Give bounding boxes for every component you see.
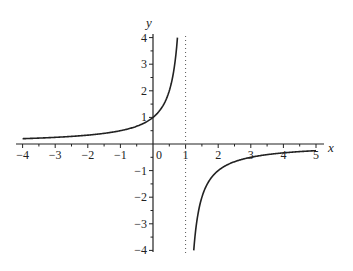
x-tick-label: 2 (215, 148, 221, 162)
x-tick-label: −3 (49, 148, 62, 162)
x-axis-label: x (327, 140, 334, 155)
y-tick-label: 2 (141, 84, 147, 98)
x-tick-label: 1 (183, 148, 189, 162)
x-tick-label: 0 (156, 148, 162, 162)
y-tick-label: 3 (141, 57, 147, 71)
y-tick-label: −2 (134, 190, 147, 204)
y-tick-label: 4 (141, 31, 147, 45)
y-tick-label: −4 (134, 243, 147, 257)
x-tick-label: 3 (248, 148, 254, 162)
function-plot: −4−3−2−1012345−4−3−2−11234 x y (0, 0, 353, 271)
curve-branch-left (23, 38, 178, 139)
x-tick-label: −4 (16, 148, 29, 162)
x-tick-label: −1 (114, 148, 127, 162)
y-axis-label: y (144, 15, 152, 30)
x-tick-label: −2 (81, 148, 94, 162)
y-tick-label: −1 (134, 164, 147, 178)
curve-branch-right (194, 151, 316, 251)
x-tick-label: 4 (280, 148, 286, 162)
axes (16, 34, 324, 252)
y-tick-label: −3 (134, 217, 147, 231)
